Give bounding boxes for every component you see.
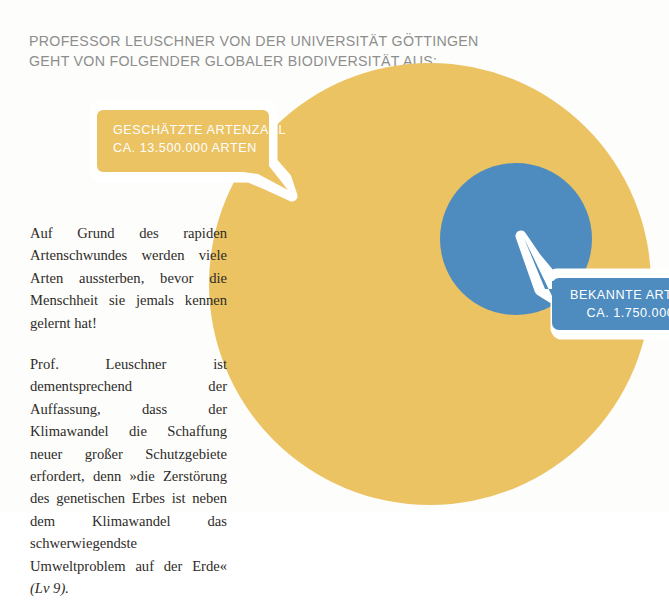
body-paragraph-2: Prof. Leuschner ist dementsprechend der … [30, 353, 227, 599]
article-body: Auf Grund des rapiden Artenschwundes wer… [30, 222, 227, 600]
body-paragraph-2-source: (Lv 9). [30, 580, 69, 596]
callout-estimated-species[interactable] [95, 106, 292, 196]
body-paragraph-1: Auf Grund des rapiden Artenschwundes wer… [30, 222, 227, 334]
body-paragraph-2-main: Prof. Leuschner ist dementsprechend der … [30, 356, 227, 574]
